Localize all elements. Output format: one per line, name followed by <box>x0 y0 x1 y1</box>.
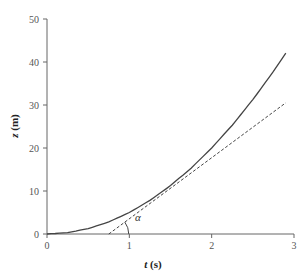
y-axis-label: z (m) <box>8 114 21 139</box>
y-tick-label: 40 <box>29 57 39 68</box>
x-tick-label: 3 <box>292 240 297 251</box>
x-axis-label: t (s) <box>144 258 162 271</box>
curve-z-of-t <box>47 53 286 234</box>
axes <box>47 19 294 234</box>
ticks: 012301020304050 <box>29 14 297 252</box>
chart: 012301020304050 α t (s) z (m) <box>0 0 308 276</box>
x-tick-label: 1 <box>127 240 132 251</box>
x-tick-label: 0 <box>45 240 50 251</box>
plot-area <box>47 53 286 234</box>
y-tick-label: 30 <box>29 100 39 111</box>
y-tick-label: 50 <box>29 14 39 25</box>
y-tick-label: 0 <box>34 229 39 240</box>
angle-arc <box>125 222 129 234</box>
alpha-annotation: α <box>135 211 141 223</box>
y-tick-label: 10 <box>29 186 39 197</box>
x-tick-label: 2 <box>209 240 214 251</box>
y-tick-label: 20 <box>29 143 39 154</box>
